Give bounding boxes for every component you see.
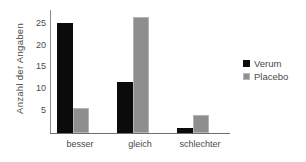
bar-group xyxy=(117,10,149,133)
bar-placebo-schlechter xyxy=(193,115,209,133)
y-tick-label: 20 xyxy=(28,41,46,50)
y-tick-label: 10 xyxy=(28,84,46,93)
bar-group xyxy=(57,10,89,133)
y-axis-tick-labels: 510152025 xyxy=(26,0,46,162)
bar-verum-gleich xyxy=(117,82,133,132)
x-tick-label-besser: besser xyxy=(50,139,110,149)
bar-placebo-besser xyxy=(73,108,89,132)
gray-square-swatch xyxy=(243,73,250,80)
y-tick-label: 5 xyxy=(28,106,46,115)
bar-placebo-gleich xyxy=(133,17,149,133)
black-square-swatch xyxy=(243,60,250,67)
x-axis-line xyxy=(50,133,230,135)
bar-group xyxy=(177,10,209,133)
y-tick-label: 15 xyxy=(28,62,46,71)
legend-item-verum: Verum xyxy=(243,57,288,70)
y-tick-label: 25 xyxy=(28,19,46,28)
x-tick-label-schlechter: schlechter xyxy=(170,139,230,149)
plot-area xyxy=(50,10,230,134)
legend-item-placebo: Placebo xyxy=(243,70,288,83)
x-tick-label-gleich: gleich xyxy=(110,139,170,149)
y-axis-title: Anzahl der Angaben xyxy=(14,9,25,129)
bar-verum-besser xyxy=(57,23,73,132)
legend-label: Verum xyxy=(254,59,281,69)
y-axis-line xyxy=(50,10,51,134)
bar-chart-figure: Anzahl der Angaben 510152025 bessergleic… xyxy=(0,0,306,162)
bar-verum-schlechter xyxy=(177,128,193,132)
legend: VerumPlacebo xyxy=(243,57,288,83)
legend-label: Placebo xyxy=(254,72,288,82)
